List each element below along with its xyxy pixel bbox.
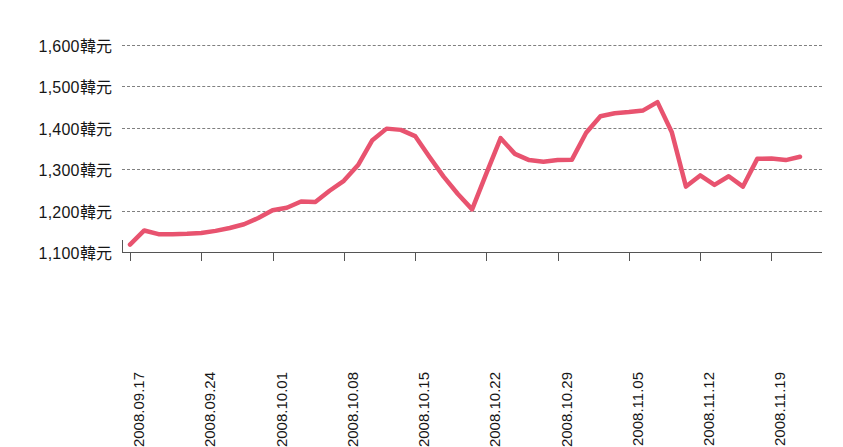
x-axis-tick-label-text: 2008.10.15 [415,372,432,447]
x-axis-tick-label-text: 2008.09.24 [201,372,218,447]
x-axis-tick-label-text: 2008.11.19 [771,372,788,446]
x-axis-tick-label-text: 2008.10.01 [273,372,290,447]
x-axis-tick-label-text: 2008.11.05 [629,372,646,446]
y-axis-tick-label: 1,400韓元 [39,116,112,140]
x-axis-tick-label-text: 2008.10.29 [558,372,575,447]
x-axis-tick-label-text: 2008.10.08 [344,372,361,447]
x-axis-tick-label-text: 2008.11.12 [700,372,717,446]
y-axis-labels: 1,600韓元1,500韓元1,400韓元1,300韓元1,200韓元1,100… [0,0,120,387]
y-axis-tick-label: 1,600韓元 [39,33,112,57]
y-axis-tick-label: 1,100韓元 [39,240,112,264]
x-axis-tick-label-text: 2008.10.22 [486,372,503,447]
plot-area: 2008.09.172008.09.242008.10.012008.10.08… [122,0,822,387]
y-axis-tick-label: 1,500韓元 [39,74,112,98]
y-axis-tick-label: 1,300韓元 [39,157,112,181]
series-polyline [130,102,800,244]
x-axis-tick-label-text: 2008.09.17 [130,372,147,447]
series-line-exchange-rate [122,0,822,260]
y-axis-tick-label: 1,200韓元 [39,199,112,223]
